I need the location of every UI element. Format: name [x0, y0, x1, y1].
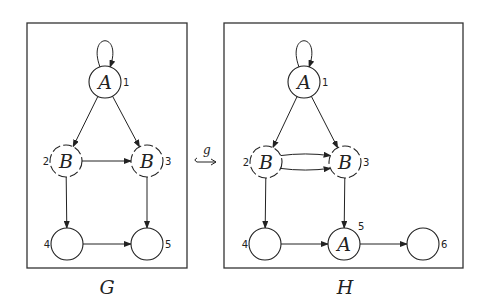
node-3: B3 [329, 146, 369, 178]
edge-1-2 [273, 96, 297, 147]
node-label: B [139, 150, 154, 172]
node-5: 5 [131, 228, 171, 260]
node-6: 6 [407, 228, 447, 260]
node-index: 5 [358, 221, 364, 232]
node-circle [407, 228, 439, 260]
node-5: A5 [328, 221, 364, 260]
graph-name-label: G [99, 276, 114, 298]
node-index: 1 [123, 77, 129, 88]
edge-1-3 [311, 96, 337, 148]
node-label: A [96, 71, 112, 93]
node-index: 1 [322, 77, 328, 88]
node-1: A1 [288, 41, 328, 98]
node-1: A1 [89, 41, 129, 98]
node-2: B2 [43, 145, 82, 177]
edge-3-5 [344, 178, 345, 228]
node-index: 4 [242, 239, 248, 250]
edge-2-4 [265, 178, 266, 228]
edge-1-3 [113, 96, 140, 147]
graph-H: HA1B2B34A56 [224, 23, 463, 298]
node-2: B2 [243, 146, 282, 178]
graph-name-label: H [336, 276, 354, 298]
self-loop-edge [97, 41, 113, 67]
graph-G: GA1B2B345 [27, 23, 187, 298]
node-label: A [335, 233, 351, 255]
node-4: 4 [242, 228, 281, 260]
node-index: 3 [363, 157, 369, 168]
node-circle [51, 228, 83, 260]
morphism-label: g [203, 143, 211, 157]
node-index: 4 [44, 239, 50, 250]
node-label: A [295, 71, 311, 93]
node-index: 5 [165, 239, 171, 250]
node-label: B [58, 150, 73, 172]
node-index: 2 [43, 156, 49, 167]
node-label: B [258, 151, 273, 173]
node-index: 6 [441, 239, 447, 250]
morphism-arrow: g [195, 143, 216, 165]
self-loop-edge [296, 41, 312, 67]
graph-morphism-diagram: GA1B2B345HA1B2B34A56 g [0, 0, 487, 308]
node-index: 3 [165, 156, 171, 167]
node-3: B3 [131, 145, 171, 177]
node-circle [249, 228, 281, 260]
node-label: B [337, 151, 352, 173]
node-circle [131, 228, 163, 260]
graph-frame [27, 23, 187, 268]
node-index: 2 [243, 157, 249, 168]
edge-2-4 [66, 177, 67, 228]
node-4: 4 [44, 228, 83, 260]
edge-2-3 [280, 154, 331, 156]
hook-arrow-icon [195, 158, 216, 165]
edge-2-3 [280, 168, 331, 170]
edge-1-2 [73, 96, 98, 146]
